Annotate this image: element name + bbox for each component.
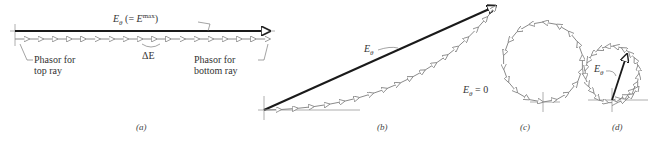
phasor-arrow bbox=[298, 107, 314, 109]
phasor-arrow bbox=[373, 89, 387, 94]
phasor-arrow bbox=[620, 95, 627, 99]
phasor-arrow bbox=[557, 93, 569, 100]
phasor-arrow bbox=[314, 104, 330, 106]
phasor-arrow bbox=[281, 108, 298, 109]
label-e-theta-d: Eθ bbox=[594, 64, 604, 77]
phasor-arrow bbox=[529, 22, 543, 24]
phasor-arrow bbox=[634, 82, 638, 89]
phasor-arrow bbox=[425, 63, 437, 70]
phasor-arrow bbox=[638, 74, 640, 82]
phasor-arrow bbox=[578, 69, 583, 82]
phasor-arrow bbox=[468, 27, 478, 37]
phasor-arrow bbox=[592, 50, 598, 55]
phasor-arrow bbox=[504, 42, 509, 55]
leader-e-theta-d bbox=[606, 71, 616, 76]
label-bottom-ray: Phasor forbottom ray bbox=[194, 55, 238, 76]
phasor-arrow bbox=[629, 52, 635, 58]
label-top-ray: Phasor fortop ray bbox=[34, 55, 75, 76]
phasor-arrow bbox=[586, 79, 589, 87]
note-close: ) bbox=[155, 13, 158, 24]
subscript-theta: θ bbox=[370, 49, 373, 57]
phasor-arrow bbox=[264, 110, 281, 111]
subscript-theta: θ bbox=[600, 69, 603, 77]
resultant-arrow-d bbox=[612, 54, 627, 100]
phasor-arrow bbox=[598, 47, 606, 50]
label-e-theta-emax: Eθ (= Emax) bbox=[113, 13, 158, 28]
panel-c bbox=[504, 22, 583, 112]
caption-b: (b) bbox=[377, 122, 388, 132]
label-delta-e: ΔE bbox=[142, 51, 155, 62]
phasor-arrow bbox=[458, 37, 468, 46]
phasor-arrow bbox=[413, 70, 425, 77]
phasor-arrow bbox=[504, 69, 509, 82]
phasor-arrow bbox=[622, 48, 629, 52]
phasor-arrow bbox=[589, 86, 594, 93]
bottom-ray-line1: Phasor for bbox=[194, 55, 238, 66]
phasor-arrow bbox=[400, 77, 413, 83]
caption-a: (a) bbox=[136, 122, 147, 132]
delta-brace bbox=[142, 44, 160, 47]
phasor-arrow bbox=[543, 22, 557, 24]
phasor-arrow bbox=[345, 98, 360, 102]
phasor-arrow bbox=[569, 82, 578, 93]
phasor-arrow bbox=[635, 58, 639, 66]
phasor-arrow bbox=[557, 24, 569, 31]
note-open: (= bbox=[123, 13, 137, 24]
phasor-arrow bbox=[585, 62, 587, 70]
phasor-arrow bbox=[436, 55, 447, 63]
phasor-arrow bbox=[606, 46, 614, 47]
phasor-arrow bbox=[448, 46, 459, 55]
leader-bottom-ray bbox=[258, 44, 268, 60]
phasor-arrow bbox=[587, 55, 591, 62]
phasor-arrow bbox=[594, 93, 600, 100]
phasor-arrow bbox=[638, 66, 639, 74]
panel-b bbox=[258, 6, 496, 120]
top-ray-line1: Phasor for bbox=[34, 55, 75, 66]
phasor-diagram bbox=[0, 0, 655, 143]
caption-c: (c) bbox=[520, 122, 530, 132]
leader-top-ray bbox=[20, 44, 33, 60]
leader-e-theta-b bbox=[378, 47, 398, 50]
phasor-arrow bbox=[329, 101, 344, 104]
phasor-arrow bbox=[478, 17, 487, 27]
delta-e-text: ΔE bbox=[142, 50, 155, 61]
phasor-arrow bbox=[359, 93, 373, 97]
panel-d bbox=[585, 46, 648, 112]
phasor-chain-c bbox=[504, 22, 583, 102]
label-e-theta-b: Eθ bbox=[364, 44, 374, 57]
resultant-arrow-b bbox=[264, 6, 496, 110]
superscript-max: max bbox=[143, 12, 155, 20]
phasor-arrow bbox=[508, 31, 517, 42]
leader-emax bbox=[198, 22, 210, 31]
phasor-arrow bbox=[578, 42, 583, 55]
top-ray-line2: top ray bbox=[34, 66, 75, 77]
phasor-arrow bbox=[569, 31, 578, 42]
bottom-ray-line2: bottom ray bbox=[194, 66, 238, 77]
phasor-arrow bbox=[614, 46, 622, 48]
label-e-theta-zero: Eθ = 0 bbox=[463, 85, 488, 98]
phasor-arrow bbox=[517, 93, 529, 100]
phasor-arrow bbox=[585, 70, 586, 78]
value-zero: = 0 bbox=[473, 84, 489, 95]
caption-d: (d) bbox=[612, 122, 623, 132]
phasor-arrow bbox=[599, 100, 608, 103]
phasor-arrow bbox=[387, 83, 400, 89]
phasor-arrow bbox=[508, 82, 517, 93]
phasor-arrow bbox=[517, 24, 529, 31]
